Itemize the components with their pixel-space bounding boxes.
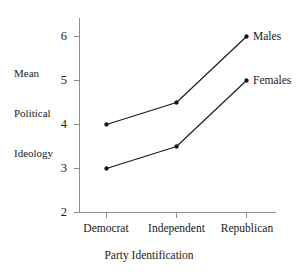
series-line-males: [107, 37, 247, 125]
y-tick-label-5: 5: [51, 73, 67, 88]
data-point-females-democrat: [105, 167, 109, 171]
y-tick-label-4: 4: [51, 117, 67, 132]
y-tick-label-3: 3: [51, 161, 67, 176]
y-axis-title: Mean Political Ideology: [14, 40, 53, 187]
data-point-males-democrat: [105, 123, 109, 127]
y-axis-title-line-3: Ideology: [14, 147, 53, 160]
data-point-males-independent: [175, 101, 179, 105]
y-tick-label-2: 2: [51, 205, 67, 220]
line-chart-figure: Mean Political Ideology 6 5 4 3 2 Democr…: [0, 0, 298, 276]
y-tick-label-6: 6: [51, 29, 67, 44]
y-axis-title-line-1: Mean: [14, 67, 53, 80]
data-point-males-republican: [245, 35, 249, 39]
x-axis-title: Party Identification: [0, 249, 298, 263]
series-label-females: Females: [253, 74, 291, 88]
x-tick-label-republican: Republican: [206, 222, 288, 236]
series-line-females: [107, 81, 247, 169]
series-label-males: Males: [253, 30, 281, 44]
data-point-females-independent: [175, 145, 179, 149]
y-axis-title-line-2: Political: [14, 107, 53, 120]
data-point-females-republican: [245, 79, 249, 83]
